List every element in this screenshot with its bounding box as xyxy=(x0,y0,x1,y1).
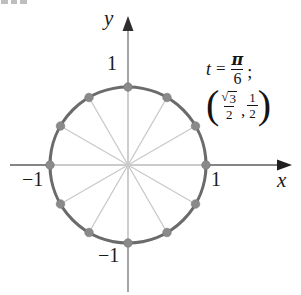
y-coordinate-denominator: 2 xyxy=(247,105,258,120)
spoke-120deg xyxy=(89,98,128,166)
point-120deg xyxy=(85,93,94,102)
point-30deg xyxy=(191,122,200,131)
angle-annotation: t = π 6 ; ( √ 3 2 , 1 2 ) xyxy=(206,52,271,125)
point-270deg xyxy=(124,239,133,248)
angle-numerator-pi: π xyxy=(230,52,246,69)
spoke-60deg xyxy=(128,98,167,166)
y-axis-arrowhead xyxy=(123,16,134,31)
spoke-30deg xyxy=(128,126,196,165)
unit-circle-figure: y x 1 −1 −1 1 t = π 6 ; ( √ 3 2 , xyxy=(0,0,301,295)
y-tick-label-negative-one: −1 xyxy=(98,245,119,265)
point-240deg xyxy=(85,228,94,237)
x-coordinate-fraction: √ 3 2 xyxy=(219,90,239,121)
spoke-330deg xyxy=(128,165,196,204)
semicolon: ; xyxy=(247,62,252,86)
annotation-coordinate-pair: ( √ 3 2 , 1 2 ) xyxy=(206,85,271,125)
angle-denominator-six: 6 xyxy=(231,69,243,87)
radical-sign-icon: √ xyxy=(221,90,228,103)
spoke-300deg xyxy=(128,165,167,233)
y-coordinate-fraction: 1 2 xyxy=(247,91,258,120)
unit-circle-canvas xyxy=(0,0,301,295)
spoke-210deg xyxy=(61,165,129,204)
point-210deg xyxy=(56,200,65,209)
spoke-240deg xyxy=(89,165,128,233)
x-tick-label-positive-one: 1 xyxy=(211,169,221,189)
point-330deg xyxy=(191,200,200,209)
y-axis-label: y xyxy=(104,8,113,29)
equals-sign: = xyxy=(216,59,226,79)
annotation-angle-equation: t = π 6 ; xyxy=(206,52,271,86)
coordinate-comma: , xyxy=(241,101,245,125)
y-coordinate-numerator: 1 xyxy=(247,91,258,105)
point-90deg xyxy=(124,83,133,92)
x-tick-label-negative-one: −1 xyxy=(22,169,43,189)
radicand-three: 3 xyxy=(228,91,237,105)
sqrt-three: √ 3 xyxy=(219,90,239,106)
angle-fraction: π 6 xyxy=(230,52,246,87)
x-axis-label: x xyxy=(277,170,286,191)
point-300deg xyxy=(163,228,172,237)
point-180deg xyxy=(46,161,55,170)
point-0deg xyxy=(202,161,211,170)
variable-t: t xyxy=(206,59,211,80)
point-60deg xyxy=(163,93,172,102)
open-paren: ( xyxy=(206,89,219,122)
y-tick-label-positive-one: 1 xyxy=(107,53,117,73)
spoke-150deg xyxy=(61,126,129,165)
x-coordinate-denominator: 2 xyxy=(224,106,235,121)
close-paren: ) xyxy=(258,89,271,122)
point-150deg xyxy=(56,122,65,131)
